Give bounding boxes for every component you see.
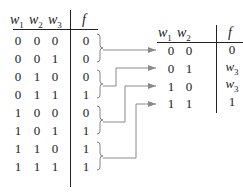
cell: 0 [163, 44, 179, 58]
cell: 1 [163, 80, 179, 94]
cell: 0 [10, 70, 26, 84]
connector-2 [103, 68, 156, 86]
cell: 0 [47, 142, 63, 156]
cell: 0 [29, 124, 45, 138]
cell: 1 [224, 95, 240, 109]
cell: 0 [181, 80, 197, 94]
cell: 0 [29, 34, 45, 48]
left-header-w3: w3 [48, 13, 62, 32]
cell: w3 [222, 77, 242, 96]
cell: 1 [10, 160, 26, 174]
left-header-f: f [82, 13, 86, 27]
cell: 0 [10, 88, 26, 102]
cell: 1 [181, 97, 197, 111]
cell: 0 [224, 43, 240, 57]
cell: 0 [78, 52, 94, 66]
cell: 1 [47, 160, 63, 174]
cell: 0 [10, 52, 26, 66]
cell: 1 [29, 88, 45, 102]
right-header-w1: w1 [158, 26, 172, 45]
cell: 1 [78, 88, 94, 102]
cell: 0 [181, 44, 197, 58]
cell: 1 [29, 70, 45, 84]
cell: 0 [47, 106, 63, 120]
cell: 0 [29, 106, 45, 120]
cell: 1 [78, 124, 94, 138]
cell: 1 [78, 142, 94, 156]
cell: 0 [163, 62, 179, 76]
cell: 1 [10, 106, 26, 120]
cell: 0 [78, 34, 94, 48]
left-header-w2: w2 [29, 13, 43, 32]
cell: 1 [29, 142, 45, 156]
cell: 1 [78, 160, 94, 174]
brace-2 [97, 70, 103, 98]
brace-1 [97, 34, 103, 62]
cell: 1 [10, 142, 26, 156]
brace-3 [97, 106, 103, 134]
cell: 1 [47, 88, 63, 102]
cell: 0 [78, 106, 94, 120]
right-header-f: f [228, 26, 232, 40]
brace-4 [97, 142, 103, 170]
left-header-w1: w1 [10, 13, 24, 32]
cell: 0 [47, 34, 63, 48]
connector-4 [103, 104, 156, 158]
cell: 1 [10, 124, 26, 138]
cell: 0 [29, 52, 45, 66]
cell: 1 [29, 160, 45, 174]
cell: 1 [181, 62, 197, 76]
cell: 0 [10, 34, 26, 48]
cell: 1 [47, 124, 63, 138]
cell: 0 [78, 70, 94, 84]
cell: 1 [163, 97, 179, 111]
cell: 1 [47, 52, 63, 66]
right-header-w2: w2 [177, 26, 191, 45]
cell: 0 [47, 70, 63, 84]
